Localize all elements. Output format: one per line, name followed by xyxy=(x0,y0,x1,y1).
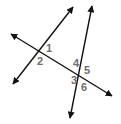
angle-label-5: 5 xyxy=(84,64,90,76)
angle-label-6: 6 xyxy=(81,81,87,93)
angle-label-1: 1 xyxy=(46,42,52,54)
angle-label-4: 4 xyxy=(73,57,80,69)
angle-diagram: 124536 xyxy=(0,0,121,124)
line-a xyxy=(13,7,73,84)
angle-label-3: 3 xyxy=(71,74,77,86)
angle-label-2: 2 xyxy=(37,55,43,67)
transversal xyxy=(11,34,112,96)
